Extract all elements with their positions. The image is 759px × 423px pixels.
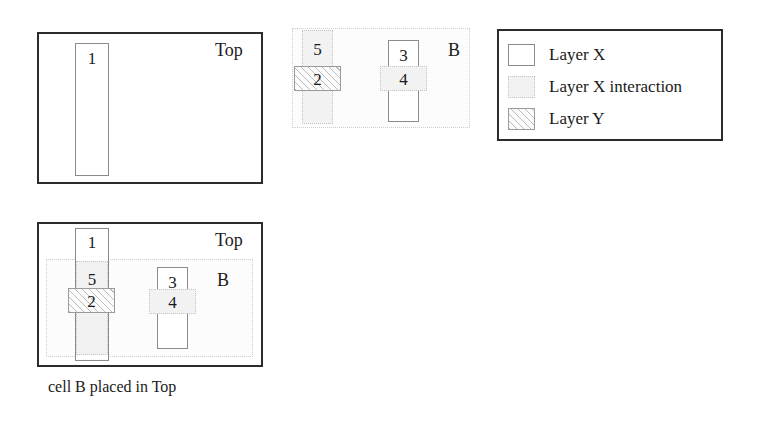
legend-label-layer-x: Layer X — [549, 45, 605, 65]
shape-label-1-merged-panel: 1 — [75, 234, 109, 251]
shape-label-2-merged-panel: 2 — [68, 293, 115, 310]
shape-label-3-b-panel: 3 — [388, 47, 419, 64]
legend-item-layer-x-interaction: Layer X interaction — [508, 71, 721, 103]
legend-item-layer-y: Layer Y — [508, 103, 721, 135]
layer-x-interaction-swatch — [508, 76, 535, 98]
panel-label-b-merged: B — [217, 271, 229, 289]
legend-label-layer-y: Layer Y — [549, 109, 605, 129]
legend-box: Layer X Layer X interaction Layer Y — [497, 29, 723, 141]
figure-caption: cell B placed in Top — [48, 378, 176, 396]
layer-y-swatch — [508, 108, 535, 130]
shape-label-5-b-panel: 5 — [302, 41, 333, 58]
panel-label-top-alone: Top — [215, 41, 243, 59]
panel-label-b-alone: B — [448, 41, 460, 59]
shape-label-1-top-panel: 1 — [75, 50, 109, 67]
shape-label-5-merged-panel: 5 — [76, 271, 108, 288]
figure-canvas: 1 Top 5 2 3 4 B Layer X Layer X interact… — [0, 0, 759, 423]
legend-item-layer-x: Layer X — [508, 39, 721, 71]
shape-label-2-b-panel: 2 — [294, 71, 341, 88]
shape-label-4-b-panel: 4 — [380, 71, 427, 88]
layer-x-swatch — [508, 44, 535, 66]
legend-label-layer-x-interaction: Layer X interaction — [549, 77, 682, 97]
panel-label-top-merged: Top — [215, 231, 243, 249]
shape-label-4-merged-panel: 4 — [149, 294, 196, 311]
